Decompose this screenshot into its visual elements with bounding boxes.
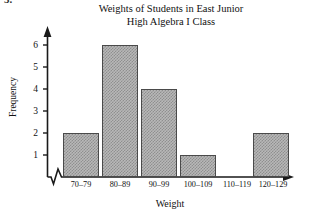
y-tick-label-6: 6 [22, 40, 38, 50]
bar-120-129 [253, 133, 289, 177]
x-axis-label: Weight [100, 198, 240, 209]
plot-area: 1 2 3 4 5 6 70–79 80–89 90–99 100–109 11… [0, 0, 317, 220]
y-tick-label-4: 4 [22, 84, 38, 94]
y-axis-arrow [44, 26, 52, 37]
y-tick-label-1: 1 [22, 150, 38, 160]
y-tick-label-3: 3 [22, 106, 38, 116]
bar-70-79 [63, 133, 99, 177]
y-axis-label: Frequency [8, 62, 18, 132]
bar-90-99 [141, 89, 177, 177]
bar-100-109 [180, 155, 216, 177]
bar-80-89 [102, 45, 138, 177]
y-tick-label-2: 2 [22, 128, 38, 138]
histogram-figure: 5. Weights of Students in East Junior Hi… [0, 0, 317, 220]
x-tick-label-120-129: 120–129 [250, 180, 296, 190]
y-tick-label-5: 5 [22, 62, 38, 72]
